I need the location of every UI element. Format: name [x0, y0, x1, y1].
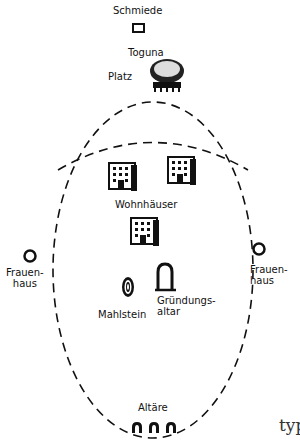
cutoff-text: typ [279, 420, 300, 431]
founding-altar-label: Gründungs- altar [157, 295, 216, 317]
women-house-right-label: Frauen- haus [250, 264, 288, 286]
square-label: Platz [108, 71, 132, 82]
smithy-icon [133, 24, 144, 32]
village-boundary [53, 102, 253, 438]
toguna-label: Toguna [128, 47, 164, 58]
dwelling-house-icon [131, 218, 159, 246]
millstone-icon [122, 277, 134, 297]
women-house-left-label: Frauen- haus [6, 267, 44, 289]
altar-icon [149, 422, 159, 433]
dwelling-house-icon [109, 163, 137, 191]
altar-icon [132, 422, 142, 433]
altar-icon [166, 422, 176, 433]
women-house-right-icon [254, 244, 265, 255]
houses-label: Wohnhäuser [115, 199, 177, 210]
founding-altar-icon [155, 264, 176, 290]
plaza-boundary [58, 143, 248, 171]
millstone-label: Mahlstein [98, 309, 146, 320]
dwelling-house-icon [168, 157, 196, 185]
altars-label: Altäre [138, 402, 168, 413]
village-plan-drawing [0, 0, 300, 446]
smithy-label: Schmiede [113, 5, 162, 16]
women-house-left-icon [25, 251, 36, 262]
toguna-icon [150, 59, 184, 92]
